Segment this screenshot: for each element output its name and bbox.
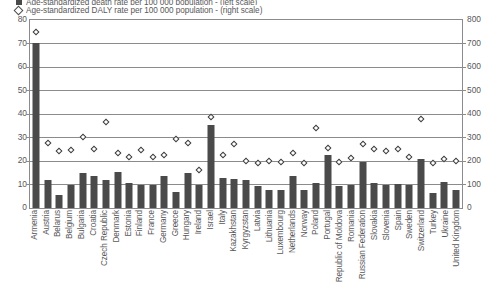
bar: [32, 43, 39, 208]
daly-marker: [441, 156, 448, 163]
cat-slot: Denmark: [111, 210, 123, 304]
cat-slot: Sweden: [405, 210, 417, 304]
daly-marker: [394, 145, 401, 152]
axis-tick: [26, 137, 29, 138]
cat-slot: Estonia: [123, 210, 135, 304]
daly-marker: [242, 157, 249, 164]
bar-slot: [404, 20, 416, 208]
daly-marker: [429, 159, 436, 166]
bar-slot: [158, 20, 170, 208]
x-tick-label: Netherlands: [288, 210, 297, 253]
bar: [44, 180, 51, 207]
cat-slot: Romania: [346, 210, 358, 304]
cat-slot: Armenia: [29, 210, 41, 304]
bar: [336, 186, 343, 207]
x-tick-label: Romania: [347, 210, 356, 242]
x-tick-label: Ireland: [195, 210, 204, 234]
y-tick-right: 300: [467, 133, 481, 141]
x-tick-label: Estonia: [124, 210, 133, 237]
cat-slot: Belarus: [52, 210, 64, 304]
bar: [219, 178, 226, 207]
daly-marker: [452, 157, 459, 164]
daly-marker: [231, 141, 238, 148]
y-tick-right: 500: [467, 86, 481, 94]
bar-slot: [333, 20, 345, 208]
chart-legend: Age-standardized death rate per 100 000 …: [0, 0, 494, 16]
bar-slot: [380, 20, 392, 208]
bar-slot: [205, 20, 217, 208]
daly-marker: [254, 159, 261, 166]
y-tick-left: 80: [18, 15, 27, 23]
x-tick-label: Russian Federation: [359, 210, 368, 279]
cat-slot: Poland: [311, 210, 323, 304]
bar-slot: [310, 20, 322, 208]
bar: [266, 190, 273, 208]
bar-slot: [450, 20, 462, 208]
bar-slot: [217, 20, 229, 208]
bar: [324, 155, 331, 208]
bar: [56, 195, 63, 208]
daly-marker: [161, 151, 168, 158]
bar: [242, 180, 249, 207]
daly-marker: [67, 146, 74, 153]
x-tick-label: Norway: [300, 210, 309, 237]
axis-tick: [463, 161, 466, 162]
cat-slot: Switzerland: [416, 210, 428, 304]
bar: [429, 193, 436, 207]
x-tick-label: Germany: [159, 210, 168, 243]
bar: [312, 183, 319, 208]
bar: [359, 162, 366, 208]
x-tick-label: Luxembourg: [277, 210, 286, 255]
daly-marker: [347, 155, 354, 162]
bar: [382, 185, 389, 207]
x-tick-label: Sweden: [406, 210, 415, 239]
cat-slot: United Kingdom: [451, 210, 463, 304]
bar: [289, 176, 296, 208]
daly-marker: [207, 113, 214, 120]
bar: [79, 173, 86, 207]
x-tick-label: Israel: [206, 210, 215, 229]
cat-slot: Portugal: [322, 210, 334, 304]
x-tick-label: Hungary: [183, 210, 192, 240]
cat-slot: Israel: [205, 210, 217, 304]
bar-slot: [147, 20, 159, 208]
daly-marker: [277, 158, 284, 165]
cat-slot: Italy: [217, 210, 229, 304]
bar-slot: [439, 20, 451, 208]
x-tick-label: Latvia: [253, 210, 262, 231]
bar-slot: [345, 20, 357, 208]
daly-marker: [102, 118, 109, 125]
cat-slot: Hungary: [182, 210, 194, 304]
bar: [137, 185, 144, 207]
daly-marker: [79, 133, 86, 140]
bar-slot: [392, 20, 404, 208]
x-tick-label: Portugal: [324, 210, 333, 240]
bar-slot: [275, 20, 287, 208]
bar-slot: [193, 20, 205, 208]
x-tick-label: Slovenia: [382, 210, 391, 241]
x-tick-label: Greece: [171, 210, 180, 236]
bar-slot: [298, 20, 310, 208]
daly-marker: [32, 29, 39, 36]
y-tick-right: 600: [467, 62, 481, 70]
cat-slot: France: [146, 210, 158, 304]
bar: [172, 192, 179, 207]
bar-slot: [42, 20, 54, 208]
bar-slot: [182, 20, 194, 208]
daly-marker: [371, 145, 378, 152]
x-tick-label: Kyrgyzstan: [241, 210, 250, 250]
bar: [347, 185, 354, 207]
bar: [91, 176, 98, 208]
daly-marker: [359, 141, 366, 148]
bar: [102, 180, 109, 207]
cat-slot: Croatia: [88, 210, 100, 304]
bar-slot: [170, 20, 182, 208]
axis-tick: [463, 184, 466, 185]
daly-marker: [149, 153, 156, 160]
x-tick-label: Spain: [394, 210, 403, 230]
bar-slot: [123, 20, 135, 208]
cat-slot: Kyrgyzstan: [240, 210, 252, 304]
x-axis-categories: ArmeniaAustriaBelarusBelgiumBulgariaCroa…: [29, 210, 463, 304]
cat-slot: Spain: [393, 210, 405, 304]
plot-area: [29, 19, 463, 209]
